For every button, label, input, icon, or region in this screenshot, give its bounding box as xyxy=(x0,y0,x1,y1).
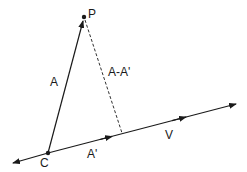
label-a-prime: A' xyxy=(87,147,97,161)
a-prime-arrow-icon xyxy=(100,136,112,139)
label-c: C xyxy=(40,156,49,170)
label-v: V xyxy=(165,128,173,142)
point-p xyxy=(82,15,86,19)
label-p: P xyxy=(88,7,96,21)
label-a: A xyxy=(50,75,58,89)
v-arrow-icon xyxy=(172,117,186,121)
label-a-minus-a-prime: A-A' xyxy=(108,65,130,79)
projection-diagram: P C A A-A' A' V xyxy=(0,0,247,172)
point-c xyxy=(46,151,50,155)
